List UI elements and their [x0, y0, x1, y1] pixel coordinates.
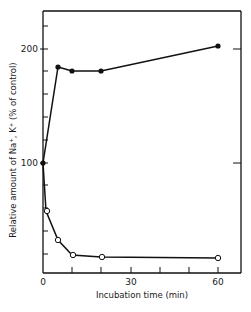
- data-point-open: [70, 252, 75, 257]
- data-point-open: [44, 208, 49, 213]
- y-axis-title: Relative amount of Na⁺, K⁺ (% of control…: [8, 62, 18, 237]
- x-ticks: [72, 267, 218, 273]
- data-point-filled: [55, 64, 60, 69]
- data-point-filled: [69, 68, 74, 73]
- data-point-open: [215, 255, 220, 260]
- series-filled-circles: [40, 43, 220, 165]
- x-axis-title: Incubation time (min): [96, 290, 188, 300]
- data-point-filled: [98, 68, 103, 73]
- chart-figure: 200 100 0 30 60 Incubation time (min) Re…: [0, 0, 251, 312]
- plot-frame: [43, 11, 241, 273]
- x-tick-label-0: 0: [40, 277, 46, 287]
- x-tick-label-30: 30: [125, 277, 137, 287]
- y-tick-label-100: 100: [21, 158, 38, 168]
- series-open-circles: [43, 163, 221, 261]
- y-tick-label-200: 200: [21, 44, 38, 54]
- series-line-open: [43, 163, 218, 258]
- data-point-open: [55, 237, 60, 242]
- data-point-open: [99, 254, 104, 259]
- y-ticks-right: [233, 49, 241, 163]
- series-line-filled: [43, 46, 218, 163]
- x-tick-label-60: 60: [212, 277, 224, 287]
- data-point-filled: [215, 43, 220, 48]
